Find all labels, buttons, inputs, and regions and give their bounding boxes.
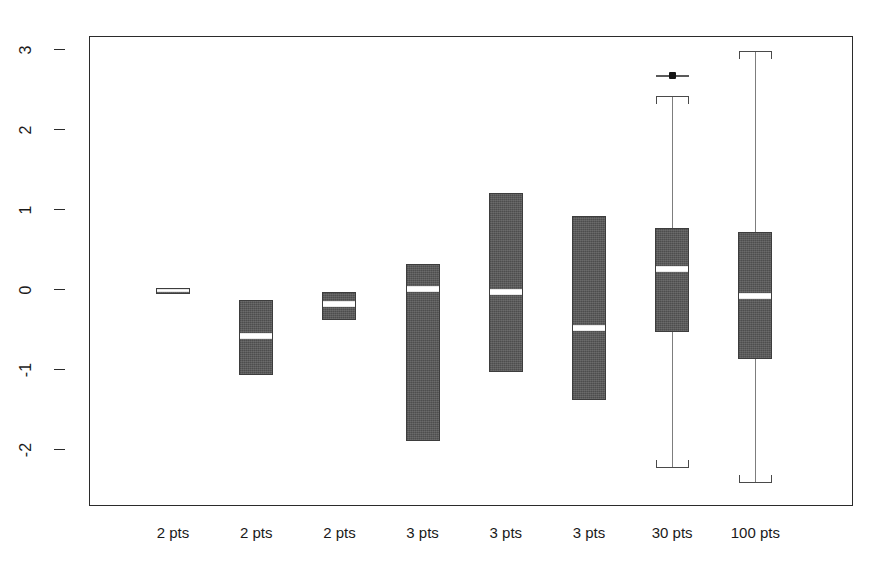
y-axis-tick [54,129,65,130]
median-line [323,301,355,307]
median-line [157,289,189,292]
median-line [573,325,605,331]
y-axis-tick [54,369,65,370]
median-line [490,289,522,295]
outlier-point [669,72,676,79]
y-axis-tick [54,49,65,50]
median-line [240,333,272,339]
box-iqr-rect [655,228,689,331]
whisker-lower [755,359,756,483]
y-axis-tick [54,449,65,450]
y-axis-tick-label: 3 [18,27,34,73]
y-axis-tick-label: -2 [18,427,34,473]
median-line [739,293,771,299]
whisker-cap-upper [656,96,689,104]
median-line [407,286,439,292]
median-line [656,266,688,272]
y-axis-tick-label: -1 [18,347,34,393]
y-axis-tick [54,289,65,290]
whisker-upper [755,51,756,232]
y-axis-tick-label: 1 [18,187,34,233]
y-axis-tick-label: 0 [18,267,34,313]
whisker-upper [672,96,673,228]
whisker-lower [672,332,673,468]
box-iqr-rect [572,216,606,401]
box-iqr-rect [489,193,523,371]
boxplot-figure: 3210-1-2 2 pts2 pts2 pts3 pts3 pts3 pts3… [0,0,877,576]
y-axis-tick-label: 2 [18,107,34,153]
whisker-cap-lower [656,460,689,468]
whisker-cap-lower [739,475,772,483]
y-axis-tick [54,209,65,210]
whisker-cap-upper [739,51,772,59]
x-axis-label: 100 pts [695,524,815,541]
y-axis: 3210-1-2 [0,0,89,576]
